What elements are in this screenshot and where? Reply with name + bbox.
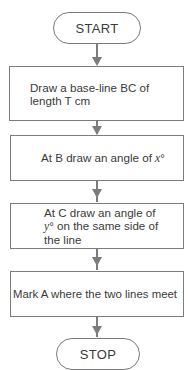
step-1-process: Draw a base-line BC of length T cm bbox=[9, 66, 184, 121]
arrowhead-icon bbox=[92, 257, 102, 266]
arrowhead-icon bbox=[92, 189, 102, 198]
step-3-process: At C draw an angle of y° on the same sid… bbox=[10, 203, 184, 249]
step-3-label: At C draw an angle of y° on the same sid… bbox=[11, 206, 183, 246]
stop-label: STOP bbox=[80, 347, 116, 362]
arrowhead-icon bbox=[92, 57, 102, 66]
step-4-label: Mark A where the two lines meet bbox=[11, 288, 183, 301]
step-2-label: At B draw an angle of x° bbox=[11, 151, 169, 165]
step-1-label: Draw a base-line BC of length T cm bbox=[10, 81, 183, 107]
start-label: START bbox=[76, 21, 119, 36]
arrowhead-icon bbox=[92, 126, 102, 135]
step-2-process: At B draw an angle of x° bbox=[10, 135, 184, 181]
start-terminal: START bbox=[53, 12, 141, 44]
step-4-process: Mark A where the two lines meet bbox=[10, 271, 184, 317]
stop-terminal: STOP bbox=[56, 338, 140, 370]
arrowhead-icon bbox=[92, 326, 102, 335]
